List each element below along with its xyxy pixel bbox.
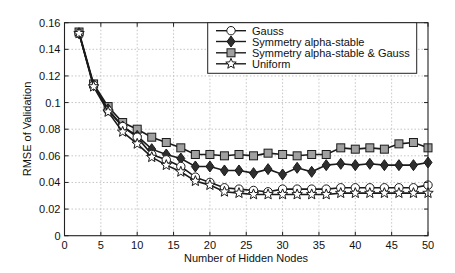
x-tick-label: 45 bbox=[386, 239, 398, 251]
line-chart: 0510152025303540455000.020.040.060.080.1… bbox=[0, 0, 455, 273]
circle-icon bbox=[227, 27, 235, 35]
y-tick-label: 0.02 bbox=[39, 203, 60, 215]
square-marker bbox=[250, 152, 258, 160]
diamond-marker bbox=[293, 162, 301, 173]
x-tick-label: 35 bbox=[313, 239, 325, 251]
diamond-marker bbox=[322, 160, 330, 171]
y-tick-label: 0.14 bbox=[39, 43, 60, 55]
diamond-marker bbox=[308, 166, 316, 177]
square-marker bbox=[279, 150, 287, 158]
x-tick-label: 20 bbox=[204, 239, 216, 251]
x-tick-label: 30 bbox=[276, 239, 288, 251]
diamond-marker bbox=[235, 165, 243, 176]
square-icon bbox=[227, 49, 235, 57]
y-tick-label: 0.16 bbox=[39, 17, 60, 29]
square-marker bbox=[162, 139, 170, 147]
diamond-marker bbox=[220, 165, 228, 176]
square-marker bbox=[409, 139, 417, 147]
y-tick-label: 0.04 bbox=[39, 176, 60, 188]
diamond-marker bbox=[351, 160, 359, 171]
diamond-marker bbox=[337, 158, 345, 169]
y-axis-title: RMSE of Validation bbox=[21, 82, 33, 177]
square-marker bbox=[351, 145, 359, 153]
diamond-marker bbox=[366, 158, 374, 169]
diamond-marker bbox=[395, 160, 403, 171]
y-tick-label: 0.06 bbox=[39, 150, 60, 162]
square-marker bbox=[293, 152, 301, 160]
square-marker bbox=[380, 145, 388, 153]
x-tick-label: 0 bbox=[61, 239, 67, 251]
x-tick-label: 15 bbox=[167, 239, 179, 251]
diamond-marker bbox=[250, 168, 258, 179]
legend: GaussSymmetry alpha-stableSymmetry alpha… bbox=[208, 23, 417, 74]
y-tick-label: 0.1 bbox=[45, 97, 60, 109]
x-tick-label: 25 bbox=[240, 239, 252, 251]
x-tick-label: 10 bbox=[131, 239, 143, 251]
square-marker bbox=[235, 150, 243, 158]
square-marker bbox=[322, 150, 330, 158]
x-tick-label: 50 bbox=[422, 239, 434, 251]
y-tick-label: 0 bbox=[54, 230, 60, 242]
legend-label: Symmetry alpha-stable bbox=[252, 36, 365, 48]
square-marker bbox=[264, 149, 272, 157]
x-axis-title: Number of Hidden Nodes bbox=[184, 252, 309, 264]
square-marker bbox=[206, 150, 214, 158]
diamond-marker bbox=[380, 160, 388, 171]
square-marker bbox=[177, 144, 185, 152]
square-marker bbox=[337, 144, 345, 152]
square-marker bbox=[148, 133, 156, 141]
y-tick-label: 0.08 bbox=[39, 123, 60, 135]
y-tick-label: 0.12 bbox=[39, 70, 60, 82]
diamond-marker bbox=[264, 164, 272, 175]
square-marker bbox=[191, 150, 199, 158]
x-tick-label: 40 bbox=[349, 239, 361, 251]
square-marker bbox=[395, 140, 403, 148]
square-marker bbox=[366, 144, 374, 152]
square-marker bbox=[308, 150, 316, 158]
square-marker bbox=[220, 152, 228, 160]
diamond-marker bbox=[206, 161, 214, 172]
legend-label: Uniform bbox=[252, 58, 291, 70]
diamond-marker bbox=[191, 161, 199, 172]
diamond-marker bbox=[409, 160, 417, 171]
diamond-marker bbox=[279, 169, 287, 180]
x-tick-label: 5 bbox=[98, 239, 104, 251]
